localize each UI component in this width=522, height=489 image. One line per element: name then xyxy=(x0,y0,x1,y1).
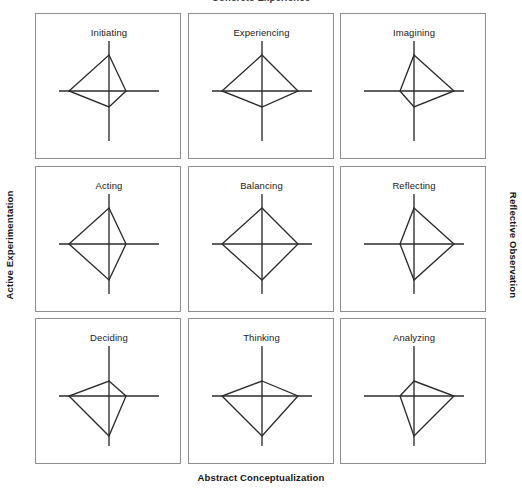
kite-panel: Initiating xyxy=(35,13,181,159)
kite-panel: Thinking xyxy=(188,318,334,464)
kite-plot xyxy=(36,14,182,160)
kite-polygon xyxy=(400,55,454,107)
kite-panel: Analyzing xyxy=(340,318,486,464)
kite-panel: Imagining xyxy=(340,13,486,159)
kite-panel: Reflecting xyxy=(340,166,486,312)
kite-plot xyxy=(341,167,487,313)
kite-panel: Balancing xyxy=(188,166,334,312)
kite-plot xyxy=(36,319,182,465)
kite-plot xyxy=(341,319,487,465)
kite-plot xyxy=(189,319,335,465)
kite-polygon xyxy=(69,55,126,107)
kite-plot xyxy=(189,14,335,160)
kite-panel: Deciding xyxy=(35,318,181,464)
kite-plot xyxy=(36,167,182,313)
kite-plot xyxy=(189,167,335,313)
axis-label-reflective-observation: Reflective Observation xyxy=(504,0,522,489)
kite-panel-grid: InitiatingExperiencingImaginingActingBal… xyxy=(35,13,486,464)
kite-plot xyxy=(341,14,487,160)
kite-panel: Experiencing xyxy=(188,13,334,159)
kite-figure: Concrete Experience Active Experimentati… xyxy=(0,0,522,489)
axis-label-active-experimentation: Active Experimentation xyxy=(0,0,18,489)
axis-label-abstract-conceptualization: Abstract Conceptualization xyxy=(0,472,522,483)
kite-panel: Acting xyxy=(35,166,181,312)
kite-polygon xyxy=(69,381,126,436)
kite-polygon xyxy=(222,381,298,436)
kite-polygon xyxy=(222,55,298,107)
axis-label-left-text: Active Experimentation xyxy=(4,190,15,299)
axis-label-right-text: Reflective Observation xyxy=(508,191,519,297)
kite-polygon xyxy=(400,381,454,436)
figure-top-title: Concrete Experience xyxy=(0,0,522,3)
